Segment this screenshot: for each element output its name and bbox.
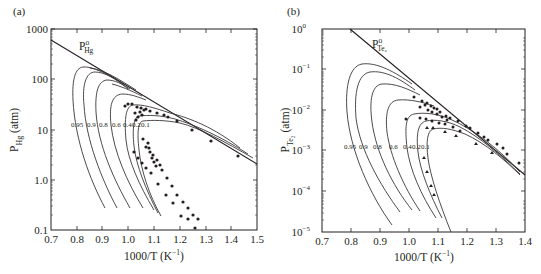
- svg-text:0.1: 0.1: [421, 143, 430, 151]
- svg-text:0.8: 0.8: [373, 143, 382, 151]
- panel-a-ytick: 1.0: [34, 174, 48, 186]
- panel-a-xtick: 1.4: [224, 233, 238, 245]
- figure: (a) 1000 100 10 1.0 0.1: [0, 0, 541, 274]
- panel-b-xtick: 1.1: [431, 235, 445, 247]
- panel-b-ytick: 10−5: [292, 225, 311, 238]
- panel-b-pure-te2-label: PoTe₂: [372, 36, 388, 53]
- panel-a-ytick: 10: [37, 124, 49, 136]
- panel-a-xtick: 0.7: [44, 233, 58, 245]
- svg-text:0.6: 0.6: [112, 121, 121, 129]
- panel-a-xtick: 0.9: [95, 233, 109, 245]
- panel-b: (b) 100 10−1 10−2 10−3 10−4: [279, 5, 532, 264]
- panel-b-xtick: 0.8: [344, 235, 358, 247]
- panel-b-xtick: 0.9: [373, 235, 387, 247]
- panel-b-xtick: 0.7: [315, 235, 329, 247]
- panel-a-xtick: 1.0: [121, 233, 135, 245]
- panel-b-x-axis: [351, 29, 496, 232]
- panel-b-x-axis-title: 1000/T (K−1): [394, 249, 454, 264]
- panel-b-xtick: 1.0: [402, 235, 416, 247]
- svg-text:0.2: 0.2: [412, 143, 421, 151]
- svg-text:0.9: 0.9: [359, 143, 368, 151]
- svg-text:0.8: 0.8: [99, 121, 108, 129]
- panel-b-y-axis: [322, 31, 525, 220]
- panel-a-pure-hg-label: PoHg: [79, 38, 94, 55]
- panel-b-xtick: 1.3: [489, 235, 503, 247]
- svg-text:0.6: 0.6: [389, 143, 398, 151]
- panel-a-xtick: 0.8: [70, 233, 84, 245]
- panel-a-xtick: 1.5: [250, 233, 264, 245]
- panel-b-curve-labels: 0.95 0.9 0.8 0.6 0.4 0.2 0.1: [344, 143, 430, 151]
- curve-0.2: [417, 120, 520, 218]
- panel-b-ytick: 10−4: [292, 184, 311, 197]
- panel-a-xtick: 1.1: [147, 233, 161, 245]
- curve-0.1: [138, 120, 253, 216]
- svg-text:0.95: 0.95: [344, 143, 357, 151]
- curve-0.9: [83, 72, 128, 208]
- svg-text:0.2: 0.2: [132, 121, 141, 129]
- svg-text:0.1: 0.1: [141, 121, 150, 129]
- panel-b-ytick: 10−2: [292, 103, 311, 116]
- panel-a-x-axis: [77, 29, 231, 230]
- svg-text:0.4: 0.4: [403, 143, 412, 151]
- panel-a-pure-hg-line: [51, 40, 257, 164]
- svg-text:0.4: 0.4: [123, 121, 132, 129]
- svg-text:0.9: 0.9: [87, 121, 96, 129]
- panel-b-xtick: 1.2: [460, 235, 474, 247]
- panel-b-ytick: 10−1: [292, 62, 311, 75]
- curve-0.8: [96, 80, 130, 208]
- curve-0.95: [73, 67, 125, 208]
- panel-a-isocomposition-curves: [73, 67, 253, 216]
- svg-text:0.95: 0.95: [71, 121, 84, 129]
- panel-a: (a) 1000 100 10 1.0 0.1: [8, 5, 264, 263]
- panel-a-ytick: 1000: [26, 23, 49, 35]
- panel-a-xtick: 1.2: [173, 233, 187, 245]
- panel-a-y-axis-title: PHg (atm): [8, 108, 24, 152]
- panel-a-xtick: 1.3: [199, 233, 213, 245]
- panel-b-plot-frame: [322, 29, 525, 232]
- panel-b-ytick: 100: [292, 22, 307, 35]
- panel-a-label: (a): [13, 5, 26, 18]
- panel-b-label: (b): [287, 5, 300, 18]
- panel-b-xtick: 1.4: [518, 235, 532, 247]
- panel-a-x-axis-title: 1000/T (K−1): [124, 248, 184, 263]
- panel-a-ytick: 100: [32, 73, 49, 85]
